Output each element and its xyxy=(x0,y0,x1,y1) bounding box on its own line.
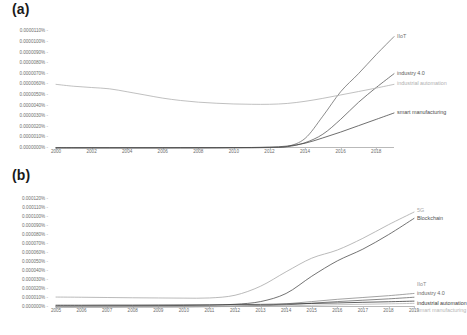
y-tick-mark: - xyxy=(46,268,48,273)
series-label-industrial-automation: industrial automation xyxy=(417,301,467,306)
line-series-blockchain xyxy=(56,218,414,306)
x-tick-label: 2005 xyxy=(51,309,61,314)
y-tick-label: 0.0000010% - xyxy=(19,135,48,140)
y-tick-label: 0.0000070% - xyxy=(19,71,48,76)
y-tick-label: 0.000120% - xyxy=(22,196,48,201)
y-tick-mark: - xyxy=(46,195,48,200)
x-tick-label: 2016 xyxy=(332,309,342,314)
y-tick-label: 0.000040% - xyxy=(22,269,48,274)
x-tick-label: 2018 xyxy=(371,150,381,155)
series-label-industry-4-0: industry 4.0 xyxy=(417,292,445,297)
y-tick-label: 0.0000110% - xyxy=(20,29,48,34)
y-tick-label: 0.000070% - xyxy=(22,241,48,246)
x-tick-label: 2002 xyxy=(86,150,96,155)
series-label-blockchain: Blockchain xyxy=(417,217,443,222)
series-label-smart-manufacturing: smart manufacturing xyxy=(417,309,466,314)
series-label-industry-4-0: industry 4.0 xyxy=(397,71,425,76)
x-tick-label: 2014 xyxy=(281,309,291,314)
y-tick-label: 0.0000090% - xyxy=(19,50,48,55)
x-tick-label: 2011 xyxy=(204,309,214,314)
y-tick-mark: - xyxy=(46,240,48,245)
y-tick-mark: - xyxy=(46,60,48,65)
series-lines-a xyxy=(56,26,394,148)
x-tick-label: 2010 xyxy=(179,309,189,314)
x-tick-label: 2004 xyxy=(122,150,132,155)
line-series-industry-4-0 xyxy=(56,74,394,148)
line-series-smart-manufacturing xyxy=(56,113,394,148)
y-tick-mark: - xyxy=(46,277,48,282)
x-tick-label: 2000 xyxy=(51,150,61,155)
y-tick-label: 0.000010% - xyxy=(22,296,48,301)
plot-area-b xyxy=(56,194,414,307)
x-tick-label: 2010 xyxy=(229,150,239,155)
y-tick-mark: - xyxy=(46,259,48,264)
y-tick-label: 0.0000030% - xyxy=(19,114,48,119)
y-tick-mark: - xyxy=(46,134,48,139)
y-tick-label: 0.0000060% - xyxy=(19,82,48,87)
plot-area-a xyxy=(56,26,394,148)
y-tick-mark: - xyxy=(46,213,48,218)
y-tick-label: 0.000050% - xyxy=(22,260,48,265)
y-tick-mark: - xyxy=(46,295,48,300)
x-axis-labels-b: 2005200620072008200920102011201220132014… xyxy=(56,309,414,321)
y-tick-label: 0.000000% - xyxy=(22,305,48,310)
line-series-industrial-automation xyxy=(56,84,394,104)
x-tick-label: 2018 xyxy=(383,309,393,314)
y-tick-mark: - xyxy=(46,231,48,236)
y-tick-label: 0.0000050% - xyxy=(19,93,48,98)
x-tick-label: 2008 xyxy=(128,309,138,314)
y-tick-mark: - xyxy=(46,28,48,33)
x-tick-mark xyxy=(414,306,415,309)
y-tick-mark: - xyxy=(46,123,48,128)
y-tick-label: 0.0000000% - xyxy=(19,146,48,151)
y-tick-label: 0.000110% - xyxy=(22,205,48,210)
y-tick-mark: - xyxy=(46,49,48,54)
series-label-5g: 5G xyxy=(417,208,424,213)
x-tick-label: 2009 xyxy=(153,309,163,314)
series-lines-b xyxy=(56,194,414,307)
y-tick-label: 0.000090% - xyxy=(22,223,48,228)
x-tick-label: 2017 xyxy=(358,309,368,314)
y-axis-labels-b: 0.000000% -0.000010% -0.000020% -0.00003… xyxy=(0,194,52,307)
x-tick-label: 2006 xyxy=(158,150,168,155)
series-label-iiot: IIoT xyxy=(417,283,426,288)
y-tick-mark: - xyxy=(46,286,48,291)
line-series-5g xyxy=(56,212,414,298)
series-label-industrial-automation: industrial automation xyxy=(397,82,447,87)
y-axis-labels-a: 0.0000000% -0.0000010% -0.0000020% -0.00… xyxy=(0,26,52,148)
series-label-smart-manufacturing: smart manufacturing xyxy=(397,110,446,115)
x-tick-label: 2008 xyxy=(193,150,203,155)
y-tick-mark: - xyxy=(46,304,48,309)
chart-panel-b: (b) 0.000000% -0.000010% -0.000020% -0.0… xyxy=(0,166,458,335)
y-tick-mark: - xyxy=(46,249,48,254)
chart-panel-a: (a) 0.0000000% -0.0000010% -0.0000020% -… xyxy=(0,0,458,168)
y-tick-label: 0.000080% - xyxy=(22,232,48,237)
y-tick-mark: - xyxy=(46,204,48,209)
y-tick-label: 0.000100% - xyxy=(22,214,48,219)
x-axis-labels-a: 2000200220042006200820102012201420162018 xyxy=(56,150,394,162)
x-tick-label: 2006 xyxy=(76,309,86,314)
x-tick-label: 2014 xyxy=(300,150,310,155)
x-tick-label: 2013 xyxy=(255,309,265,314)
x-tick-label: 2012 xyxy=(264,150,274,155)
y-tick-mark: - xyxy=(46,39,48,44)
panel-a-label: (a) xyxy=(12,1,30,17)
panel-b-label: (b) xyxy=(12,167,30,183)
y-tick-mark: - xyxy=(46,102,48,107)
series-label-iiot: IIoT xyxy=(397,34,406,39)
y-tick-label: 0.0000020% - xyxy=(19,124,48,129)
y-tick-label: 0.000020% - xyxy=(22,287,48,292)
y-tick-label: 0.000030% - xyxy=(22,278,48,283)
x-tick-label: 2007 xyxy=(102,309,112,314)
y-tick-label: 0.0000080% - xyxy=(19,61,48,66)
x-tick-label: 2016 xyxy=(336,150,346,155)
y-tick-mark: - xyxy=(46,92,48,97)
y-tick-mark: - xyxy=(46,145,48,150)
y-tick-label: 0.0000100% - xyxy=(19,40,48,45)
y-tick-mark: - xyxy=(46,222,48,227)
y-tick-mark: - xyxy=(46,81,48,86)
y-tick-label: 0.000060% - xyxy=(22,250,48,255)
x-tick-label: 2012 xyxy=(230,309,240,314)
y-tick-mark: - xyxy=(46,113,48,118)
